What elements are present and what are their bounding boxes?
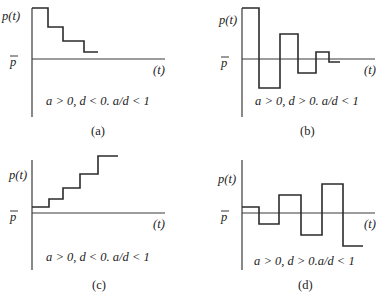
price-path [32, 156, 118, 207]
equilibrium-price-label: p [220, 210, 227, 224]
panel-caption: (a) [91, 124, 105, 138]
price-path [32, 8, 98, 52]
y-axis-label: p(t) [1, 9, 20, 23]
parameter-condition: a > 0, d < 0. a/d < 1 [46, 94, 150, 108]
y-axis-label: p(t) [217, 172, 236, 186]
panel-caption: (b) [300, 124, 315, 138]
parameter-condition: a > 0, d < 0. a/d < 1 [46, 250, 150, 264]
x-axis-label: (t) [364, 63, 376, 77]
y-axis-label: p(t) [8, 168, 27, 182]
panel-c: p(t) p (t) a > 0, d < 0. a/d < 1 (c) [8, 156, 165, 292]
parameter-condition: a > 0, d > 0. a/d < 1 [255, 94, 359, 108]
panel-d: p(t) p (t) a > 0, d > 0.a/d < 1 (d) [217, 160, 376, 292]
equilibrium-price-label: p [220, 56, 227, 70]
price-path [242, 8, 340, 88]
parameter-condition: a > 0, d > 0.a/d < 1 [254, 254, 355, 268]
y-axis-label: p(t) [218, 13, 237, 27]
panel-a: p(t) p (t) a > 0, d < 0. a/d < 1 (a) [1, 8, 165, 138]
x-axis-label: (t) [364, 217, 376, 231]
panel-caption: (c) [92, 278, 106, 292]
price-path [242, 184, 363, 246]
x-axis-label: (t) [153, 63, 165, 77]
x-axis-label: (t) [153, 217, 165, 231]
cobweb-price-dynamics-diagram: p(t) p (t) a > 0, d < 0. a/d < 1 (a) p(t… [0, 0, 381, 298]
panel-b: p(t) p (t) a > 0, d > 0. a/d < 1 (b) [218, 8, 376, 138]
equilibrium-price-label: p [9, 210, 16, 224]
panel-caption: (d) [298, 278, 313, 292]
equilibrium-price-label: p [9, 55, 16, 69]
